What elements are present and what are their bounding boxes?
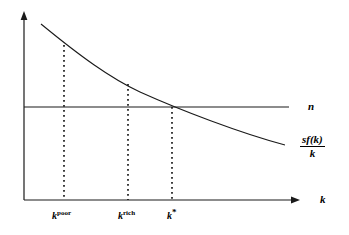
tick-label-k-star: k* bbox=[167, 211, 177, 221]
sfk-over-k-label: sf(k) k bbox=[300, 134, 325, 159]
y-axis-arrow-icon bbox=[21, 11, 28, 20]
fraction-denominator: k bbox=[300, 147, 325, 159]
diagram-canvas bbox=[0, 0, 349, 235]
tick-label-k-rich: krich bbox=[118, 211, 135, 221]
x-axis-label: k bbox=[320, 194, 326, 205]
fraction: sf(k) k bbox=[300, 134, 325, 159]
tick-label-k-star-superscript: * bbox=[172, 207, 177, 217]
n-curve-label: n bbox=[308, 101, 314, 112]
tick-label-k-poor: kpoor bbox=[52, 211, 71, 221]
tick-label-k-poor-superscript: poor bbox=[57, 209, 71, 217]
x-axis-arrow-icon bbox=[291, 197, 300, 204]
tick-label-k-rich-superscript: rich bbox=[123, 209, 135, 217]
fraction-numerator: sf(k) bbox=[300, 134, 325, 147]
sfk-over-k-curve bbox=[41, 24, 285, 145]
solow-convergence-diagram: n sf(k) k k kpoor krich k* bbox=[0, 0, 349, 235]
